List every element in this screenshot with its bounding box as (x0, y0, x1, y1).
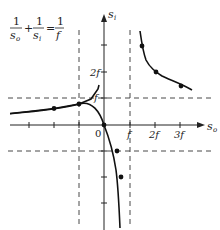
curve-right-branch (140, 31, 192, 90)
term3-numerator: 1 (57, 15, 64, 28)
term1-numerator: 1 (13, 15, 20, 28)
term2-subscript: i (39, 35, 41, 43)
x-tick-f: f (126, 129, 133, 140)
term2-numerator: 1 (36, 15, 43, 28)
x-tick-3f: 3f (174, 129, 186, 140)
y-axis-arrow-icon (101, 14, 107, 22)
data-points (52, 44, 184, 180)
thin-lens-graph: 1 s o + 1 s i = 1 f (0, 0, 220, 230)
x-tick-2f: 2f (148, 129, 161, 140)
x-axis-subscript: o (213, 126, 217, 134)
lens-equation: 1 s o + 1 s i = 1 f (10, 15, 64, 43)
y-axis-subscript: i (114, 14, 116, 22)
term3-denominator: f (55, 29, 62, 42)
x-axis-arrow-icon (197, 122, 205, 128)
plus-sign: + (24, 22, 33, 35)
term1-subscript: o (16, 35, 20, 43)
origin-label: 0 (95, 128, 101, 139)
y-tick-2f: 2f (89, 67, 102, 78)
equals-sign: = (46, 22, 55, 35)
